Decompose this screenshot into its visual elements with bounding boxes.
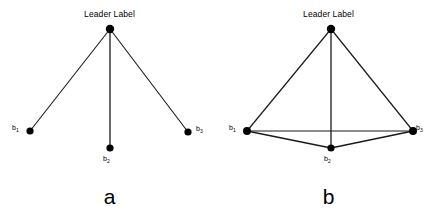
panel-caption-a: a bbox=[0, 186, 219, 207]
edge-leader-b3 bbox=[331, 29, 413, 131]
edge-b2-b3 bbox=[331, 131, 413, 148]
node-group-b bbox=[243, 25, 417, 152]
node-b2[interactable] bbox=[106, 144, 113, 151]
edge-leader-b1 bbox=[30, 29, 110, 131]
node-label-b3: b3 bbox=[416, 124, 423, 131]
node-label-b1-sub: 1 bbox=[16, 127, 19, 133]
node-b1[interactable] bbox=[26, 127, 33, 134]
node-label-b2-sub: 2 bbox=[328, 158, 331, 164]
node-leader[interactable] bbox=[106, 25, 114, 33]
edge-leader-b1 bbox=[247, 29, 331, 131]
panel-caption-b: b bbox=[219, 186, 438, 207]
edge-leader-b3 bbox=[110, 29, 188, 132]
diagram-panel-b: Leader Label b1 b2 b3 b bbox=[219, 0, 438, 215]
node-leader[interactable] bbox=[327, 25, 335, 33]
node-label-b3-sub: 3 bbox=[200, 128, 203, 134]
node-group-a bbox=[26, 25, 191, 152]
edge-b1-b2 bbox=[247, 131, 331, 148]
node-label-b3-sub: 3 bbox=[420, 127, 423, 133]
node-label-b2: b2 bbox=[103, 155, 110, 162]
diagram-panel-a: Leader Label b1 b2 b3 a bbox=[0, 0, 219, 215]
graph-svg-a bbox=[0, 0, 219, 215]
node-label-b3: b3 bbox=[196, 125, 203, 132]
figure-container: Leader Label b1 b2 b3 a bbox=[0, 0, 439, 215]
node-b3[interactable] bbox=[184, 128, 191, 135]
node-label-b1: b1 bbox=[229, 124, 236, 131]
node-b1[interactable] bbox=[243, 127, 251, 135]
node-label-b2: b2 bbox=[324, 155, 331, 162]
leader-label-b: Leader Label bbox=[219, 9, 438, 19]
leader-label-a: Leader Label bbox=[0, 9, 219, 19]
node-label-b2-sub: 2 bbox=[107, 158, 110, 164]
edge-group-b bbox=[247, 29, 413, 148]
graph-svg-b bbox=[219, 0, 438, 215]
node-b2[interactable] bbox=[327, 144, 334, 151]
node-label-b1-sub: 1 bbox=[233, 127, 236, 133]
edge-group-a bbox=[30, 29, 188, 148]
node-label-b1: b1 bbox=[12, 124, 19, 131]
